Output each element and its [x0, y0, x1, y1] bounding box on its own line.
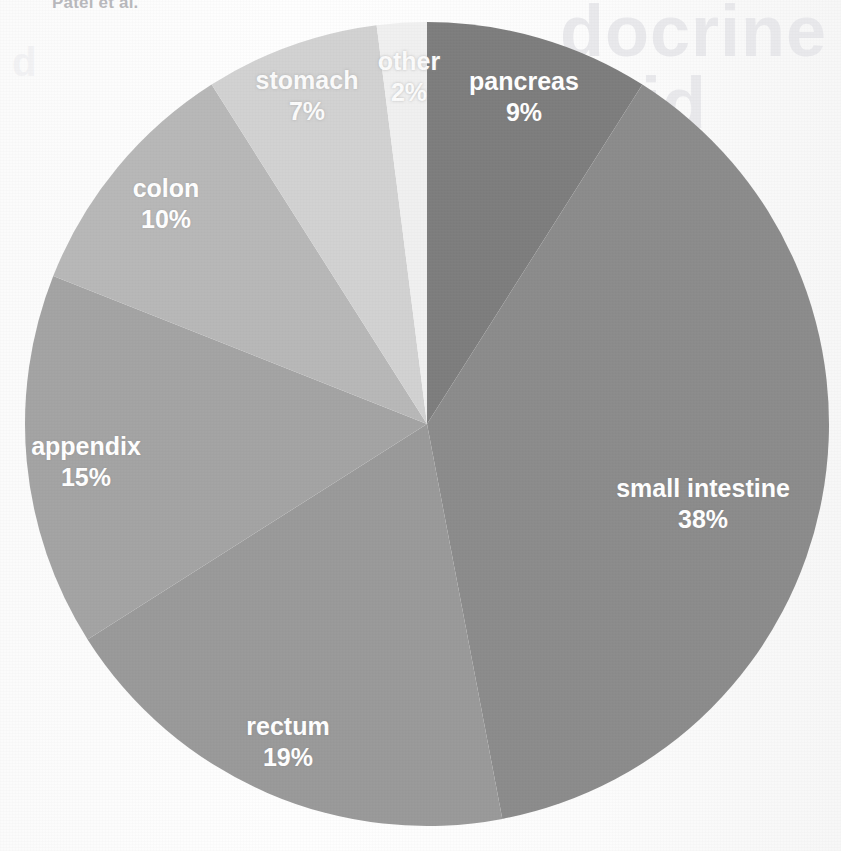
pie-label-value: 2%	[378, 76, 441, 107]
pie-label-value: 19%	[246, 741, 329, 772]
pie-label-name: rectum	[246, 712, 329, 740]
pie-label-name: stomach	[256, 66, 359, 94]
pie-label-colon: colon10%	[133, 173, 200, 234]
pie-label-value: 10%	[133, 203, 200, 234]
pie-label-value: 7%	[256, 95, 359, 126]
pie-label-small-intestine: small intestine38%	[616, 473, 790, 534]
pie-label-name: pancreas	[469, 67, 579, 95]
pie-label-value: 38%	[616, 503, 790, 534]
pie-label-pancreas: pancreas9%	[469, 66, 579, 127]
pie-label-name: small intestine	[616, 474, 790, 502]
pie-label-rectum: rectum19%	[246, 711, 329, 772]
pie-label-value: 15%	[31, 461, 141, 492]
pie-chart: pancreas9%small intestine38%rectum19%app…	[0, 0, 841, 851]
pie-label-name: colon	[133, 174, 200, 202]
pie-chart-canvas	[0, 0, 841, 851]
pie-label-stomach: stomach7%	[256, 65, 359, 126]
pie-label-name: other	[378, 47, 441, 75]
pie-label-name: appendix	[31, 432, 141, 460]
pie-label-appendix: appendix15%	[31, 431, 141, 492]
pie-label-other: other2%	[378, 46, 441, 107]
pie-slice-group	[25, 22, 829, 826]
pie-label-value: 9%	[469, 96, 579, 127]
